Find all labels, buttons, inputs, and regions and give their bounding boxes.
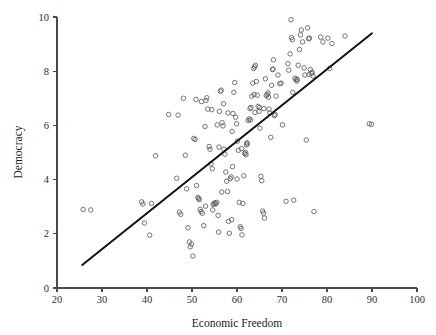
- scatter-point: [269, 83, 274, 88]
- x-tick-label: 90: [367, 294, 378, 305]
- scatter-point: [233, 80, 238, 85]
- x-axis-title: Economic Freedom: [192, 317, 282, 329]
- scatter-point: [286, 61, 291, 66]
- scatter-point: [289, 17, 294, 22]
- scatter-point: [287, 68, 292, 73]
- x-tick-label: 80: [322, 294, 333, 305]
- scatter-point: [205, 96, 210, 101]
- scatter-point: [193, 137, 198, 142]
- scatter-point: [262, 216, 267, 221]
- scatter-point: [305, 26, 310, 31]
- scatter-point: [166, 112, 171, 117]
- x-tick-label: 100: [409, 294, 425, 305]
- scatter-point: [219, 190, 224, 195]
- scatter-point: [194, 183, 199, 188]
- scatter-point: [210, 208, 215, 213]
- scatter-plot-figure: 2030405060708090100 0246810 Economic Fre…: [0, 0, 436, 335]
- y-axis-title: Democracy: [12, 125, 25, 178]
- scatter-point: [291, 198, 296, 203]
- scatter-point: [253, 110, 258, 115]
- x-tick-label: 20: [52, 294, 63, 305]
- scatter-point: [201, 223, 206, 228]
- y-tick-label: 10: [39, 12, 50, 23]
- scatter-point: [288, 52, 293, 57]
- scatter-point: [276, 73, 281, 78]
- scatter-point: [210, 167, 215, 172]
- regression-trend-line: [82, 33, 372, 265]
- scatter-point: [242, 174, 247, 179]
- x-axis-ticks: 2030405060708090100: [52, 288, 425, 305]
- scatter-point: [291, 90, 296, 95]
- scatter-point: [225, 189, 230, 194]
- scatter-point: [312, 209, 317, 214]
- y-tick-label: 8: [44, 66, 49, 77]
- y-tick-label: 6: [44, 120, 49, 131]
- scatter-point: [226, 111, 231, 116]
- scatter-point: [298, 33, 303, 38]
- scatter-point: [284, 199, 289, 204]
- x-tick-label: 60: [232, 294, 243, 305]
- scatter-point: [234, 122, 239, 127]
- scatter-point: [176, 113, 181, 118]
- scatter-point: [153, 154, 158, 159]
- scatter-point: [142, 221, 147, 226]
- scatter-point: [259, 174, 264, 179]
- scatter-point: [147, 233, 152, 238]
- scatter-point: [302, 66, 307, 71]
- scatter-point: [199, 99, 204, 104]
- scatter-point: [235, 177, 240, 182]
- scatter-point: [204, 98, 209, 103]
- scatter-point: [326, 36, 331, 41]
- scatter-point: [318, 35, 323, 40]
- y-axis-ticks: 0246810: [39, 12, 58, 294]
- scatter-point: [217, 145, 222, 150]
- scatter-point: [263, 77, 268, 82]
- scatter-point: [230, 129, 235, 134]
- scatter-point: [260, 178, 265, 183]
- scatter-point: [215, 123, 220, 128]
- x-tick-label: 30: [97, 294, 108, 305]
- plot-canvas: 2030405060708090100 0246810 Economic Fre…: [0, 0, 436, 335]
- scatter-point: [217, 109, 222, 114]
- scatter-point: [232, 90, 237, 95]
- scatter-point: [233, 115, 238, 120]
- scatter-point: [227, 231, 232, 236]
- scatter-point: [343, 34, 348, 39]
- x-tick-label: 40: [142, 294, 153, 305]
- scatter-point: [269, 135, 274, 140]
- scatter-point: [249, 105, 254, 110]
- scatter-point: [191, 254, 196, 259]
- scatter-point: [280, 123, 285, 128]
- y-tick-label: 2: [44, 228, 49, 239]
- scatter-point: [297, 47, 302, 52]
- scatter-point: [184, 187, 189, 192]
- scatter-point: [262, 106, 267, 111]
- x-tick-label: 50: [187, 294, 198, 305]
- scatter-point: [216, 230, 221, 235]
- scatter-point: [274, 94, 279, 99]
- scatter-point: [89, 208, 94, 213]
- scatter-point: [258, 126, 263, 131]
- scatter-point: [149, 201, 154, 206]
- scatter-point: [186, 226, 191, 231]
- scatter-point: [208, 147, 213, 152]
- scatter-point: [81, 207, 86, 212]
- scatter-point: [183, 153, 188, 158]
- scatter-point: [174, 176, 179, 181]
- scatter-point: [203, 124, 208, 129]
- x-tick-label: 70: [277, 294, 288, 305]
- scatter-point: [224, 170, 229, 175]
- y-tick-label: 4: [44, 174, 50, 185]
- y-tick-label: 0: [44, 283, 49, 294]
- scatter-point: [181, 96, 186, 101]
- scatter-point: [296, 63, 301, 68]
- scatter-point: [299, 28, 304, 33]
- scatter-point: [188, 245, 193, 250]
- scatter-point: [219, 88, 224, 93]
- scatter-point: [207, 144, 212, 149]
- scatter-point: [230, 164, 235, 169]
- scatter-point: [240, 233, 245, 238]
- scatter-point: [194, 97, 199, 102]
- scatter-point: [304, 138, 309, 143]
- scatter-point: [216, 213, 221, 218]
